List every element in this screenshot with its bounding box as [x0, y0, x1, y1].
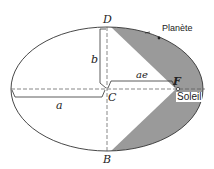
label-D: D: [103, 14, 112, 25]
label-F: F: [173, 76, 181, 87]
label-sun: Soleil: [176, 92, 202, 102]
brace-b: [100, 29, 106, 88]
brace-a: [12, 90, 105, 97]
label-planet: Planète: [162, 24, 193, 33]
label-a: a: [56, 100, 63, 111]
planet-dot: [158, 37, 161, 40]
label-b: b: [91, 54, 98, 65]
brace-ae: [108, 81, 175, 88]
label-C: C: [108, 92, 116, 103]
label-ae: ae: [136, 70, 148, 80]
label-B: B: [103, 154, 111, 165]
